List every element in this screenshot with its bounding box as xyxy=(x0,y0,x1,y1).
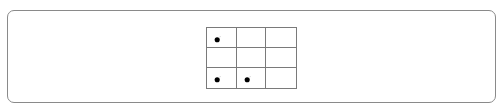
board-cell-0-0[interactable] xyxy=(207,28,237,48)
game-board xyxy=(206,27,297,89)
board-cell-1-0[interactable] xyxy=(207,48,237,68)
board-cell-2-0[interactable] xyxy=(207,68,237,88)
board-cell-1-1[interactable] xyxy=(237,48,267,68)
board-cell-2-2[interactable] xyxy=(266,68,296,88)
bomb-icon xyxy=(244,75,252,83)
bomb-icon xyxy=(214,75,222,83)
board-cell-1-2[interactable] xyxy=(266,48,296,68)
board-cell-0-2[interactable] xyxy=(266,28,296,48)
board-cell-0-1[interactable] xyxy=(237,28,267,48)
board-cell-2-1[interactable] xyxy=(237,68,267,88)
bomb-icon xyxy=(214,35,222,43)
